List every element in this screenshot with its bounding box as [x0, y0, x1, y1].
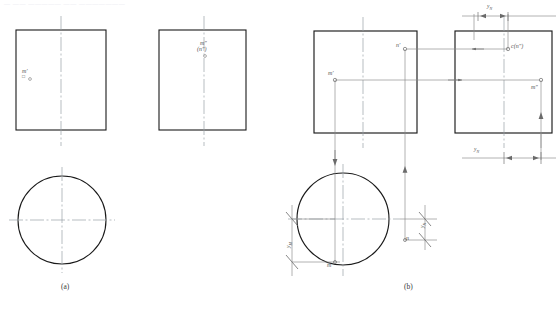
panel-b-top-view-points	[334, 239, 407, 264]
panel-b-front-view	[314, 17, 417, 148]
label-n-prime-panel-b: n′	[396, 42, 400, 48]
panel-a-side-view	[159, 16, 246, 146]
label-c-n-double-prime: c(n″)	[511, 43, 523, 49]
label-n-top-view: n	[406, 235, 409, 241]
panel-a-front-view	[16, 16, 106, 146]
label-m-prime-panel-b: m′	[328, 70, 334, 76]
label-m-top-view: m	[327, 262, 331, 268]
dim-label-y-n-right: yN	[419, 223, 427, 228]
dimension-y-n-top	[462, 12, 556, 21]
caption-a: (a)	[61, 282, 69, 291]
dim-label-y-n-bottom: yN	[474, 146, 479, 154]
dim-label-y-n-top: yN	[487, 3, 492, 11]
panel-b-top-view	[288, 164, 400, 276]
dimension-y-m-left	[286, 205, 340, 276]
panel-b-side-view	[455, 17, 552, 148]
panel-a-top-view	[9, 167, 115, 273]
dim-label-y-m-left: yM	[285, 242, 293, 248]
figure-page: — —— ————— —— ———————	[0, 0, 556, 310]
label-n-double-prime-panel-a: (n″)	[197, 46, 207, 52]
figure-canvas	[0, 0, 556, 310]
label-m-double-prime-panel-b: m″	[531, 84, 538, 90]
caption-b: (b)	[404, 282, 413, 291]
label-m-prime-panel-a-sub: □	[22, 74, 25, 79]
panel-b-projection-lines	[333, 14, 544, 262]
